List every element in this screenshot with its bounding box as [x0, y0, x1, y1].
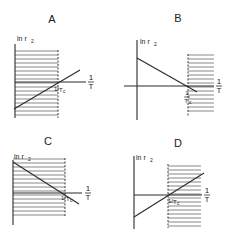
- y-label-text: ln r: [14, 153, 24, 160]
- y-label-subscript: 2: [150, 157, 153, 163]
- hatched-region: [168, 166, 201, 226]
- x-axis-label: 1T: [204, 186, 210, 204]
- x-axis-label: 1T: [88, 73, 94, 91]
- y-label-subscript: 2: [31, 38, 34, 44]
- x-axis-label: 1T: [216, 77, 222, 95]
- tc-subscript: c: [189, 99, 192, 105]
- hatched-region: [188, 55, 214, 111]
- panel-c: Cln r21T1/Tc: [13, 135, 91, 225]
- tc-subscript: c: [63, 88, 66, 94]
- panel-b: Bln r21T1Tc: [124, 12, 222, 120]
- x-label-denominator: T: [205, 195, 210, 204]
- figure-canvas: Aln r21T1/TcBln r21T1TcCln r21T1/TcDln r…: [0, 0, 229, 238]
- panel-title: D: [174, 137, 182, 149]
- critical-temperature-label: 1/Tc: [61, 195, 73, 203]
- panel-title: A: [48, 13, 56, 25]
- tc-denominator: T: [184, 98, 188, 104]
- panel-title: C: [44, 135, 52, 147]
- phase-diagram-figure: Aln r21T1/TcBln r21T1TcCln r21T1/TcDln r…: [0, 0, 229, 238]
- x-label-numerator: 1: [217, 77, 222, 86]
- x-label-denominator: T: [89, 82, 94, 91]
- x-label-numerator: 1: [205, 186, 210, 195]
- y-label-text: ln r: [140, 38, 150, 45]
- x-axis-label: 1T: [85, 184, 91, 202]
- x-label-denominator: T: [86, 193, 91, 202]
- critical-temperature-label: 1/Tc: [168, 198, 180, 206]
- y-label-text: ln r: [136, 154, 146, 161]
- y-axis-label: ln r2: [14, 153, 31, 162]
- y-label-text: ln r: [17, 35, 27, 42]
- tc-subscript: c: [177, 200, 180, 206]
- y-axis-label: ln r2: [17, 35, 34, 44]
- hatched-region: [15, 51, 58, 115]
- x-label-denominator: T: [217, 86, 222, 95]
- y-label-subscript: 2: [28, 156, 31, 162]
- y-axis-label: ln r2: [136, 154, 153, 163]
- x-label-numerator: 1: [86, 184, 91, 193]
- y-label-subscript: 2: [154, 41, 157, 47]
- panel-d: Dln r21T1/Tc: [134, 137, 210, 229]
- critical-temperature-label: 1/Tc: [54, 86, 66, 94]
- x-label-numerator: 1: [89, 73, 94, 82]
- panel-title: B: [174, 12, 181, 24]
- panel-a: Aln r21T1/Tc: [14, 13, 94, 118]
- y-axis-label: ln r2: [140, 38, 157, 47]
